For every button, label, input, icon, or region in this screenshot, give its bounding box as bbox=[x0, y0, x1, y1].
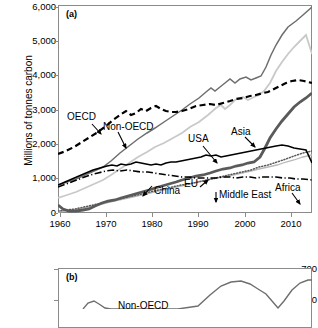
x-tick-label-1970: 1970 bbox=[86, 219, 126, 229]
chart-panel-b: 700 500 (b) Non-OECD bbox=[0, 262, 317, 309]
arrow-africa bbox=[292, 193, 300, 204]
label-china: China bbox=[154, 185, 180, 196]
x-tick-label-1980: 1980 bbox=[132, 219, 172, 229]
arrow-asia bbox=[245, 137, 255, 147]
chart-panel-a: 6,000 5,000 4,000 3,000 2,000 1,000 0 Mi… bbox=[0, 0, 317, 262]
x-tickmark-1980 bbox=[152, 213, 153, 217]
arrow-non-oecd bbox=[118, 132, 126, 148]
arrow-oecd bbox=[92, 124, 101, 134]
label-eu: EU bbox=[184, 178, 198, 189]
label-non-oecd-b: Non-OECD bbox=[118, 300, 169, 311]
arrow-eu bbox=[200, 180, 208, 187]
arrow-usa bbox=[203, 146, 217, 163]
arrow-china bbox=[143, 186, 152, 196]
x-tickmark-1960 bbox=[60, 213, 61, 217]
label-non-oecd: Non-OECD bbox=[103, 121, 154, 132]
label-asia: Asia bbox=[231, 126, 250, 137]
x-tick-label-1990: 1990 bbox=[178, 219, 218, 229]
label-middle-east: Middle East bbox=[219, 189, 271, 200]
series-lines-b bbox=[58, 268, 312, 309]
panel-tag-b: (b) bbox=[66, 272, 78, 282]
label-usa: USA bbox=[188, 133, 209, 144]
x-tick-label-1960: 1960 bbox=[40, 219, 80, 229]
x-tickmark-1970 bbox=[106, 213, 107, 217]
x-tickmark-2010 bbox=[291, 213, 292, 217]
x-tick-label-2000: 2000 bbox=[225, 219, 265, 229]
x-tickmark-1990 bbox=[198, 213, 199, 217]
label-oecd: OECD bbox=[67, 111, 96, 122]
x-tick-label-2010: 2010 bbox=[271, 219, 311, 229]
label-africa: Africa bbox=[275, 182, 301, 193]
x-tickmark-2000 bbox=[245, 213, 246, 217]
panel-tag-a: (a) bbox=[66, 9, 77, 19]
